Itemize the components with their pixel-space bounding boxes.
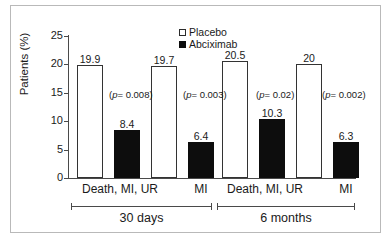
y-tick-label-5: 5	[37, 144, 63, 155]
y-tick-label-0: 0	[37, 172, 63, 183]
x-axis-line	[68, 178, 356, 179]
open-square-icon	[179, 29, 186, 36]
bracket-cap-right	[211, 203, 212, 210]
bar-abciximab-30d-mi: 6.4	[188, 142, 214, 178]
bar-placebo-6m-death-mi-ur: 20.5	[222, 61, 248, 178]
pvalue-annotation-6m-mi: (p= 0.002)	[322, 90, 366, 100]
group-bracket-6-months	[217, 203, 355, 209]
bar-placebo-30d-mi: 19.7	[151, 66, 177, 178]
pvalue-text: = 0.02)	[264, 89, 294, 100]
bracket-cap-left	[217, 203, 218, 210]
group-label-6-months: 6 months	[217, 211, 355, 226]
bar-value-label: 20	[303, 52, 315, 65]
bracket-line	[71, 206, 212, 207]
bar-abciximab-6m-mi: 6.3	[333, 142, 359, 178]
y-tick-label-15: 15	[37, 87, 63, 98]
figure-frame: 25 20 15 10 5 0 Patients (%) Placebo Abc…	[10, 5, 381, 233]
pvalue-text: = 0.008)	[117, 89, 152, 100]
y-tick-label-25: 25	[37, 30, 63, 41]
plot-area: 19.9 8.4 19.7 6.4 20.5 10.3 20 6.3	[68, 36, 355, 178]
pvalue-annotation-6m-death-mi-ur: (p= 0.02)	[256, 90, 294, 100]
bar-value-label: 6.3	[339, 130, 354, 143]
y-tick-label-20: 20	[37, 58, 63, 69]
y-tick-label-10: 10	[37, 115, 63, 126]
bracket-cap-right	[354, 203, 355, 210]
x-category-label-6m-death-mi-ur: Death, MI, UR	[215, 182, 315, 196]
x-category-label-30d-death-mi-ur: Death, MI, UR	[70, 182, 170, 196]
bar-value-label: 19.7	[154, 54, 174, 67]
y-axis-title: Patients (%)	[18, 4, 30, 124]
bracket-cap-left	[71, 203, 72, 210]
y-tick-0	[64, 178, 69, 179]
group-bracket-30-days	[71, 203, 212, 209]
bar-value-label: 8.4	[120, 118, 135, 131]
y-tick-label-group: 25 20 15 10 5 0	[35, 6, 63, 239]
bar-value-label: 19.9	[80, 53, 100, 66]
figure-container: 25 20 15 10 5 0 Patients (%) Placebo Abc…	[0, 0, 392, 239]
pvalue-text: = 0.002)	[330, 89, 365, 100]
pvalue-annotation-30d-death-mi-ur: (p= 0.008)	[109, 90, 153, 100]
bar-abciximab-6m-death-mi-ur: 10.3	[259, 119, 285, 178]
bar-placebo-6m-mi: 20	[296, 64, 322, 178]
pvalue-text: = 0.003)	[191, 89, 226, 100]
x-category-label-6m-mi: MI	[309, 182, 383, 196]
bracket-line	[217, 206, 355, 207]
bar-value-label: 10.3	[262, 107, 282, 120]
group-label-30-days: 30 days	[71, 211, 212, 226]
bar-value-label: 20.5	[225, 49, 245, 62]
bar-value-label: 6.4	[194, 130, 209, 143]
bar-placebo-30d-death-mi-ur: 19.9	[77, 65, 103, 178]
pvalue-annotation-30d-mi: (p= 0.003)	[183, 90, 227, 100]
bar-abciximab-30d-death-mi-ur: 8.4	[114, 130, 140, 178]
